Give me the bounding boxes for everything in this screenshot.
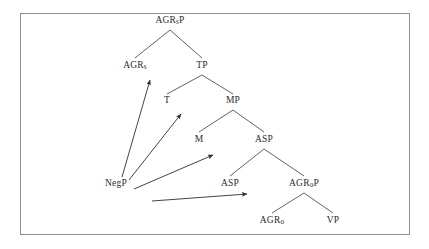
node-base: AGR — [155, 15, 176, 25]
tree-node-agrop: AGRoP — [289, 179, 319, 189]
node-subscript: o — [280, 218, 284, 226]
node-tail: P — [313, 178, 318, 188]
tree-node-asp2: ASP — [221, 179, 239, 189]
node-subscript: o — [310, 181, 314, 189]
tree-node-asp1: ASP — [255, 135, 273, 145]
tree-diagram-figure: AGRsPAGRsTPTMPMASPNegPASPAGRoPAGRoVP — [0, 0, 429, 249]
tree-node-vp: VP — [327, 216, 340, 226]
tree-node-mp: MP — [226, 96, 240, 106]
node-base: AGR — [289, 178, 310, 188]
tree-node-t: T — [164, 96, 170, 106]
tree-node-agro: AGRo — [260, 216, 284, 226]
node-subscript: s — [176, 18, 179, 26]
tree-node-agrs: AGRs — [123, 61, 147, 71]
node-subscript: s — [144, 63, 147, 71]
tree-node-tp: TP — [196, 61, 208, 71]
node-tail: P — [179, 15, 184, 25]
figure-border — [20, 13, 410, 235]
tree-node-negp: NegP — [105, 179, 127, 189]
tree-node-agrsp: AGRsP — [155, 16, 184, 26]
node-base: AGR — [123, 60, 144, 70]
tree-node-m: M — [195, 135, 204, 145]
node-base: AGR — [260, 215, 281, 225]
